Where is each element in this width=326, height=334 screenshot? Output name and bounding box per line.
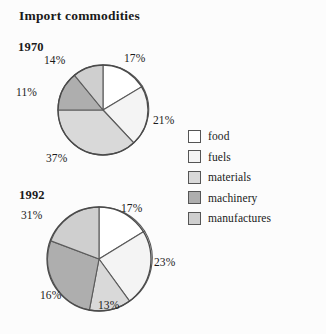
legend-item-machinery: machinery <box>188 189 271 207</box>
pie-1992-label-materials: 13% <box>98 299 119 311</box>
legend-label-machinery: machinery <box>208 192 257 204</box>
pie-1970-label-fuels: 21% <box>153 114 174 126</box>
pie-1992-label-fuels: 23% <box>154 256 175 268</box>
legend-item-food: food <box>188 127 271 145</box>
pie-1992-label-manufactures: 31% <box>21 209 42 221</box>
legend-label-materials: materials <box>208 171 251 183</box>
legend-label-manufactures: manufactures <box>208 212 271 224</box>
legend-item-materials: materials <box>188 168 271 186</box>
chart-legend: food fuels materials machinery manufactu… <box>188 127 271 230</box>
pie-chart-1970 <box>55 62 151 158</box>
pie-1970-label-manufactures: 14% <box>44 54 65 66</box>
legend-swatch-fuels <box>188 150 201 163</box>
legend-label-fuels: fuels <box>208 151 231 163</box>
legend-swatch-manufactures <box>188 212 201 225</box>
pie-1992-label-food: 17% <box>121 202 142 214</box>
legend-label-food: food <box>208 130 229 142</box>
pie-1992-label-machinery: 16% <box>40 289 61 301</box>
legend-swatch-machinery <box>188 191 201 204</box>
chart-year-1992: 1992 <box>19 188 45 203</box>
legend-item-manufactures: manufactures <box>188 209 271 227</box>
chart-year-1970: 1970 <box>18 40 44 55</box>
pie-1970-label-materials: 37% <box>46 152 67 164</box>
legend-swatch-materials <box>188 171 201 184</box>
chart-page: Import commodities 1970 17% 21% 37% 11% … <box>0 0 326 334</box>
pie-1970-label-machinery: 11% <box>16 86 37 98</box>
legend-swatch-food <box>188 130 201 143</box>
pie-1970-label-food: 17% <box>124 52 145 64</box>
legend-item-fuels: fuels <box>188 148 271 166</box>
page-title: Import commodities <box>19 8 140 24</box>
